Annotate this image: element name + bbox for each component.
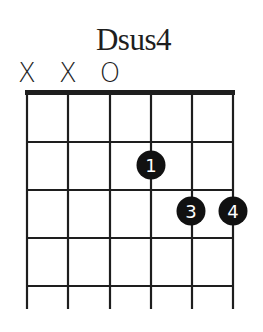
fretboard-diagram: 1 3 4 bbox=[0, 0, 263, 332]
finger-dot-1: 1 bbox=[137, 151, 166, 180]
finger-dot-3: 3 bbox=[177, 197, 206, 226]
nut bbox=[25, 90, 235, 95]
finger-label-3: 3 bbox=[185, 201, 196, 222]
finger-label-4: 4 bbox=[227, 201, 238, 222]
finger-label-1: 1 bbox=[145, 155, 156, 176]
strings bbox=[27, 92, 233, 309]
finger-dot-4: 4 bbox=[219, 197, 248, 226]
